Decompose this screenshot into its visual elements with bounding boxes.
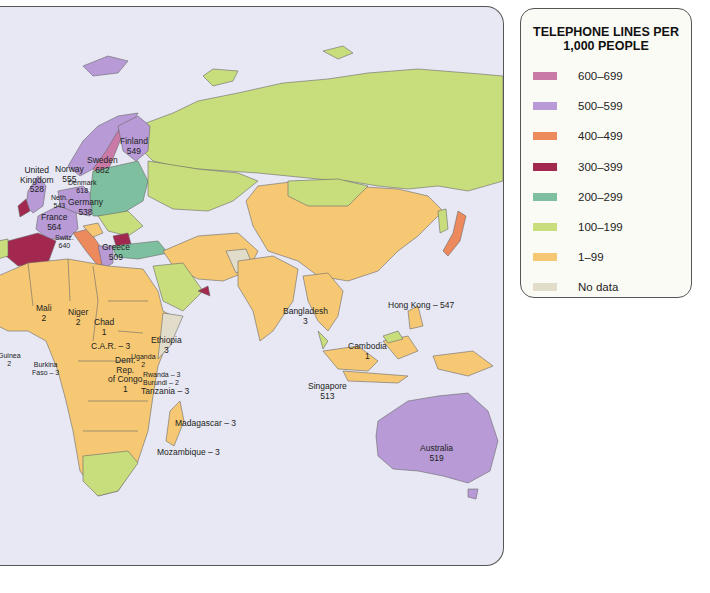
- world-map: [0, 7, 503, 565]
- label-singapore: Singapore513: [308, 382, 347, 401]
- legend-swatch: [533, 102, 557, 110]
- legend-item: 200–299: [521, 182, 691, 212]
- label-chad: Chad1: [94, 318, 114, 337]
- label-niger: Niger2: [68, 308, 88, 327]
- legend-item: No data: [521, 272, 691, 302]
- south-africa-region: [83, 451, 138, 496]
- label-rwanda: Rwanda – 3: [143, 371, 180, 379]
- label-france: France564: [41, 213, 67, 232]
- legend-title: TELEPHONE LINES PER 1,000 PEOPLE: [521, 25, 691, 53]
- australia-region: [376, 393, 498, 483]
- legend-item: 100–199: [521, 212, 691, 242]
- label-cambodia: Cambodia1: [348, 342, 387, 361]
- legend-swatch: [533, 193, 557, 201]
- label-denmark: Denmark618: [68, 179, 96, 195]
- label-australia: Australia519: [420, 444, 453, 463]
- label-greece: Greece509: [102, 243, 130, 262]
- legend-item: 300–399: [521, 152, 691, 182]
- label-guinea: Guinea2: [0, 352, 21, 368]
- legend-swatch: [533, 72, 557, 80]
- map-panel: Finland549 Sweden682 Norway555 UnitedKin…: [0, 6, 504, 566]
- label-netherlands: Neth.543: [51, 194, 68, 210]
- label-germany: Germany538: [68, 198, 103, 217]
- label-hong-kong: Hong Kong – 547: [388, 301, 454, 311]
- label-sweden: Sweden682: [87, 156, 118, 175]
- legend-item: 400–499: [521, 121, 691, 151]
- label-bangladesh: Bangladesh3: [283, 307, 328, 326]
- legend-swatch: [533, 163, 557, 171]
- label-mali: Mali2: [36, 304, 52, 323]
- label-car: C.A.R. – 3: [91, 342, 130, 352]
- label-drc: Dem.Rep.of Congo1: [108, 356, 143, 394]
- map-legend: TELEPHONE LINES PER 1,000 PEOPLE 600–699…: [520, 8, 692, 298]
- label-mozambique: Mozambique – 3: [157, 448, 220, 458]
- legend-swatch: [533, 223, 557, 231]
- label-switzerland: Switz.640: [55, 234, 74, 250]
- label-tanzania: Tanzania – 3: [141, 387, 189, 397]
- legend-item: 1–99: [521, 242, 691, 272]
- legend-swatch: [533, 253, 557, 261]
- india-region: [238, 256, 298, 341]
- legend-swatch: [533, 132, 557, 140]
- label-finland: Finland549: [120, 137, 148, 156]
- legend-items: 600–699 500–599 400–499 300–399 200–299 …: [521, 61, 691, 303]
- label-uk: UnitedKingdom528: [20, 166, 54, 195]
- label-madagascar: Madagascar – 3: [175, 419, 236, 429]
- legend-item: 600–699: [521, 61, 691, 91]
- legend-item: 500–599: [521, 91, 691, 121]
- legend-swatch: [533, 283, 557, 291]
- label-burkina-faso: BurkinaFaso – 3: [32, 361, 59, 377]
